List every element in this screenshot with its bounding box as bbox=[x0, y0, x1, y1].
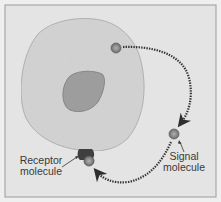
signal-molecule-bound bbox=[84, 156, 94, 166]
signal-label-line2: molecule bbox=[158, 162, 210, 173]
diagram: Receptor molecule Signal molecule bbox=[0, 0, 221, 202]
signal-label: Signal molecule bbox=[158, 151, 210, 173]
signal-molecule-origin bbox=[111, 43, 121, 53]
receptor-label: Receptor molecule bbox=[16, 155, 66, 177]
signal-molecule-extracellular bbox=[169, 129, 179, 139]
receptor-label-line2: molecule bbox=[16, 166, 66, 177]
